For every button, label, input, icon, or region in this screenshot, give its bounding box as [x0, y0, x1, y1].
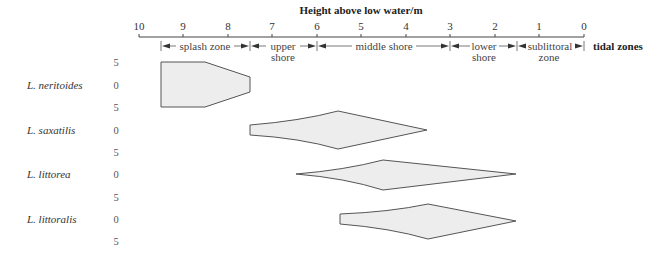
y-label: 0	[113, 80, 118, 91]
y-label: 0	[113, 214, 118, 225]
kite-neritoides	[161, 62, 250, 107]
x-axis	[139, 34, 584, 37]
tick-1: 1	[536, 20, 542, 32]
species-saxatilis: L. saxatilis	[26, 124, 75, 136]
y-label: 5	[113, 192, 118, 203]
kite-diagram: Height above low water/m 10 9 8 7 6 5 4 …	[0, 0, 665, 265]
zone-middle-label: middle shore	[355, 40, 412, 52]
y-label: 5	[113, 57, 118, 68]
tick-4: 4	[403, 20, 409, 32]
tick-3: 3	[447, 20, 453, 32]
species-neritoides: L. neritoides	[26, 79, 83, 91]
kites	[161, 62, 516, 239]
y-scale-labels: 5 0 5 0 5 0 5 0 5	[113, 57, 118, 247]
tick-0: 0	[581, 20, 587, 32]
zone-middle-shore: middle shore	[318, 40, 449, 52]
species-littoralis: L. littoralis	[26, 213, 77, 225]
tick-10: 10	[134, 20, 146, 32]
zone-lower-shore: lower shore	[451, 40, 516, 63]
kite-littorea	[296, 160, 516, 190]
species-littorea: L. littorea	[26, 168, 71, 180]
tick-5: 5	[358, 20, 364, 32]
tick-8: 8	[225, 20, 231, 32]
zone-splash: splash zone	[162, 40, 249, 52]
zone-upper-shore: upper shore	[251, 40, 316, 63]
zone-sublittoral: sublittoral zone	[518, 40, 583, 63]
zone-lower-label-2: shore	[472, 51, 496, 63]
tick-6: 6	[314, 20, 320, 32]
zone-splash-label: splash zone	[179, 40, 230, 52]
kite-saxatilis	[250, 111, 427, 149]
axis-title: Height above low water/m	[299, 4, 422, 16]
y-label: 0	[113, 169, 118, 180]
zone-upper-label-2: shore	[271, 51, 295, 63]
tick-9: 9	[180, 20, 186, 32]
tick-7: 7	[269, 20, 275, 32]
y-label: 5	[113, 102, 118, 113]
tidal-zones-label: tidal zones	[593, 40, 644, 52]
x-tick-labels: 10 9 8 7 6 5 4 3 2 1 0	[134, 20, 588, 32]
y-label: 5	[113, 147, 118, 158]
tidal-zones: splash zone upper shore middle shore low…	[161, 40, 644, 63]
kite-littoralis	[340, 204, 516, 239]
tick-2: 2	[492, 20, 498, 32]
y-label: 5	[113, 236, 118, 247]
species-labels: L. neritoides L. saxatilis L. littorea L…	[26, 79, 83, 225]
y-label: 0	[113, 125, 118, 136]
zone-sublittoral-label-2: zone	[539, 51, 560, 63]
